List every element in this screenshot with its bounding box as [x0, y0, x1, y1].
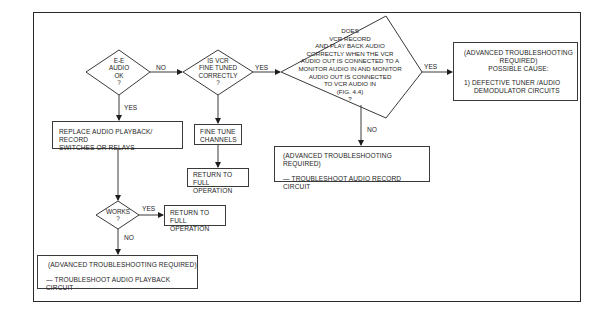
edge-label-tuned-yes: YES: [255, 64, 268, 71]
edge-label-monitor-no: NO: [367, 126, 377, 133]
decision-ee-audio: E-E AUDIO OK ?: [99, 57, 139, 87]
box-record-circuit: (ADVANCED TROUBLESHOOTING REQUIRED) — TR…: [274, 146, 430, 182]
box-return-full-operation-2: RETURN TO FULL OPERATION: [164, 205, 226, 226]
box-replace-switches: REPLACE AUDIO PLAYBACK/ RECORD SWITCHES …: [52, 121, 183, 149]
decision-works: WORKS ?: [101, 208, 135, 223]
box-possible-cause: (ADVANCED TROUBLESHOOTING REQUIRED) POSS…: [453, 42, 578, 101]
edge-label-works-yes: YES: [142, 205, 155, 212]
decision-fine-tuned: IS VCR FINE TUNED CORRECTLY ?: [190, 57, 246, 87]
edge-label-ee-yes: YES: [124, 104, 137, 111]
edge-label-ee-no: NO: [156, 64, 166, 71]
edge-label-works-no: NO: [124, 234, 134, 241]
box-fine-tune-channels: FINE TUNE CHANNELS: [194, 124, 242, 145]
decision-monitor-test: DOES VCR RECORD AND PLAY BACK AUDIO CORR…: [290, 27, 410, 103]
box-return-full-operation-1: RETURN TO FULL OPERATION: [187, 168, 249, 187]
edge-label-monitor-yes: YES: [424, 63, 437, 70]
box-playback-circuit: (ADVANCED TROUBLESHOOTING REQUIRED) — TR…: [37, 255, 198, 289]
